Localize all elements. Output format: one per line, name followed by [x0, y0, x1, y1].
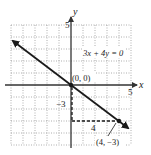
- equation-line: [13, 41, 71, 85]
- point-4-neg3-label: (4, −3): [96, 137, 119, 147]
- leader-line: [108, 123, 116, 136]
- x-axis-label: x: [138, 79, 144, 90]
- origin-point-label: (0, 0): [72, 73, 91, 83]
- point-4-neg3: [117, 119, 121, 123]
- equation-label: 3x + 4y = 0: [82, 48, 124, 58]
- run-label: 4: [91, 123, 96, 133]
- rise-label: −3: [56, 99, 66, 109]
- point-origin: [69, 83, 73, 87]
- coordinate-graph: x y 5 5 −3 4 3x + 4y = 0 (0, 0) (4, −3): [0, 0, 151, 155]
- y-axis-label: y: [72, 6, 78, 17]
- x-tick-label: 5: [128, 87, 133, 97]
- y-tick-label: 5: [65, 20, 70, 30]
